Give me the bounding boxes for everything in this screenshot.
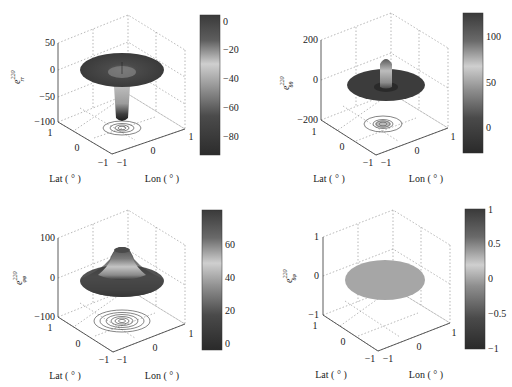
z-tick-labels: 1 0 −1 — [308, 231, 319, 320]
colorbar — [465, 209, 485, 349]
peak-surface — [380, 59, 392, 89]
svg-text:0: 0 — [415, 145, 420, 156]
svg-text:1: 1 — [189, 131, 194, 142]
svg-text:1: 1 — [313, 320, 318, 331]
svg-text:−1: −1 — [488, 343, 499, 354]
svg-text:−60: −60 — [223, 102, 239, 113]
svg-text:0: 0 — [153, 342, 158, 353]
svg-text:0: 0 — [488, 273, 493, 284]
svg-text:0: 0 — [50, 64, 55, 75]
lon-axis-label: Lon ( ° ) — [409, 173, 443, 185]
svg-text:0: 0 — [314, 270, 319, 281]
svg-text:0.5: 0.5 — [488, 238, 501, 249]
svg-text:e220rr: e220rr — [10, 71, 25, 84]
svg-text:e220θθ: e220θθ — [279, 77, 294, 90]
z-tick-labels: 50 0 −50 −100 — [34, 37, 55, 127]
lat-tick-labels: 1 0 −1 — [313, 320, 376, 364]
svg-text:1: 1 — [488, 204, 493, 215]
contour-projection — [103, 121, 141, 135]
svg-text:0: 0 — [225, 338, 230, 349]
svg-text:50: 50 — [486, 77, 496, 88]
colorbar-ticks: 60 40 20 0 — [225, 239, 235, 349]
lat-axis-label: Lat ( ° ) — [313, 173, 344, 185]
z-axis-label: e220rr — [10, 71, 25, 84]
svg-text:−1: −1 — [383, 353, 394, 364]
panel-e-thph: 1 0 −1 1 0 −1 −1 0 1 Lat ( ° ) Lon ( ° )… — [256, 195, 512, 387]
z-axis-label: e220θθ — [279, 77, 294, 90]
svg-text:1: 1 — [48, 322, 53, 333]
colorbar-ticks: 1 0.5 0 −0.5 −1 — [488, 204, 506, 354]
colorbar — [202, 210, 222, 350]
svg-text:100: 100 — [40, 232, 55, 243]
svg-text:0: 0 — [340, 141, 345, 152]
lat-tick-labels: 1 0 −1 — [48, 127, 109, 168]
svg-text:40: 40 — [225, 272, 235, 283]
svg-text:60: 60 — [225, 239, 235, 250]
svg-text:−20: −20 — [223, 44, 239, 55]
panel-e-thth: 200 0 −200 1 0 −1 −1 0 1 Lat ( ° ) Lon (… — [256, 0, 512, 193]
panel-e-rr: 50 0 −50 −100 1 0 −1 −1 0 1 Lat ( ° ) Lo… — [0, 0, 256, 193]
svg-text:0: 0 — [76, 338, 81, 349]
colorbar-ticks: 100 50 0 — [486, 31, 501, 133]
lon-tick-labels: −1 0 1 — [383, 327, 457, 364]
svg-text:−80: −80 — [223, 131, 239, 142]
z-tick-labels: 100 0 −100 — [34, 232, 55, 322]
svg-text:1: 1 — [451, 131, 456, 142]
svg-text:1: 1 — [189, 328, 194, 339]
svg-text:20: 20 — [225, 305, 235, 316]
z-axis-label: e220θφ — [282, 270, 297, 283]
surface-plot-thth: 200 0 −200 1 0 −1 −1 0 1 Lat ( ° ) Lon (… — [256, 0, 512, 193]
contour-projection — [94, 310, 150, 332]
funnel-surface — [114, 86, 130, 121]
svg-text:0: 0 — [486, 122, 491, 133]
svg-text:−100: −100 — [34, 116, 55, 127]
svg-text:−1: −1 — [381, 157, 392, 168]
svg-text:−1: −1 — [117, 157, 128, 168]
svg-text:−100: −100 — [34, 311, 55, 322]
svg-text:−50: −50 — [39, 91, 55, 102]
z-tick-labels: 200 0 −200 — [297, 34, 318, 125]
svg-text:−40: −40 — [223, 73, 239, 84]
svg-text:−200: −200 — [297, 114, 318, 125]
lat-axis-label: Lat ( ° ) — [49, 370, 80, 382]
surface-plot-thph: 1 0 −1 1 0 −1 −1 0 1 Lat ( ° ) Lon ( ° )… — [256, 195, 512, 387]
surface-plot-phph: 100 0 −100 1 0 −1 −1 0 1 Lat ( ° ) Lon (… — [0, 195, 256, 387]
colorbar — [200, 15, 220, 155]
svg-text:0: 0 — [75, 142, 80, 153]
svg-text:1: 1 — [314, 231, 319, 242]
svg-text:e220φφ: e220φφ — [12, 272, 27, 285]
svg-text:−1: −1 — [365, 353, 376, 364]
svg-text:−1: −1 — [98, 157, 109, 168]
svg-text:1: 1 — [452, 327, 457, 338]
lat-axis-label: Lat ( ° ) — [49, 173, 80, 185]
svg-text:−0.5: −0.5 — [488, 308, 506, 319]
svg-text:0: 0 — [151, 145, 156, 156]
lon-axis-label: Lon ( ° ) — [145, 370, 179, 382]
lon-axis-label: Lon ( ° ) — [409, 369, 443, 381]
svg-text:100: 100 — [486, 31, 501, 42]
svg-text:−1: −1 — [117, 354, 128, 365]
lat-axis-label: Lat ( ° ) — [315, 369, 346, 381]
svg-text:1: 1 — [48, 127, 53, 138]
svg-text:0: 0 — [341, 336, 346, 347]
lon-tick-labels: −1 0 1 — [381, 131, 456, 168]
z-axis-label: e220φφ — [12, 272, 27, 285]
svg-text:50: 50 — [45, 37, 55, 48]
svg-text:−1: −1 — [99, 354, 110, 365]
svg-text:1: 1 — [312, 126, 317, 137]
disk-surface — [345, 260, 425, 300]
svg-text:200: 200 — [303, 34, 318, 45]
surface-plot-rr: 50 0 −50 −100 1 0 −1 −1 0 1 Lat ( ° ) Lo… — [0, 0, 256, 193]
lon-tick-labels: −1 0 1 — [117, 131, 194, 168]
lon-axis-label: Lon ( ° ) — [145, 173, 179, 185]
svg-text:0: 0 — [50, 272, 55, 283]
svg-text:0: 0 — [417, 341, 422, 352]
svg-text:−1: −1 — [363, 157, 374, 168]
colorbar — [463, 13, 483, 153]
svg-text:0: 0 — [223, 16, 228, 27]
svg-text:e220θφ: e220θφ — [282, 270, 297, 283]
svg-text:−1: −1 — [308, 309, 319, 320]
svg-text:0: 0 — [313, 74, 318, 85]
panel-e-phph: 100 0 −100 1 0 −1 −1 0 1 Lat ( ° ) Lon (… — [0, 195, 256, 387]
colorbar-ticks: 0 −20 −40 −60 −80 — [223, 16, 239, 142]
